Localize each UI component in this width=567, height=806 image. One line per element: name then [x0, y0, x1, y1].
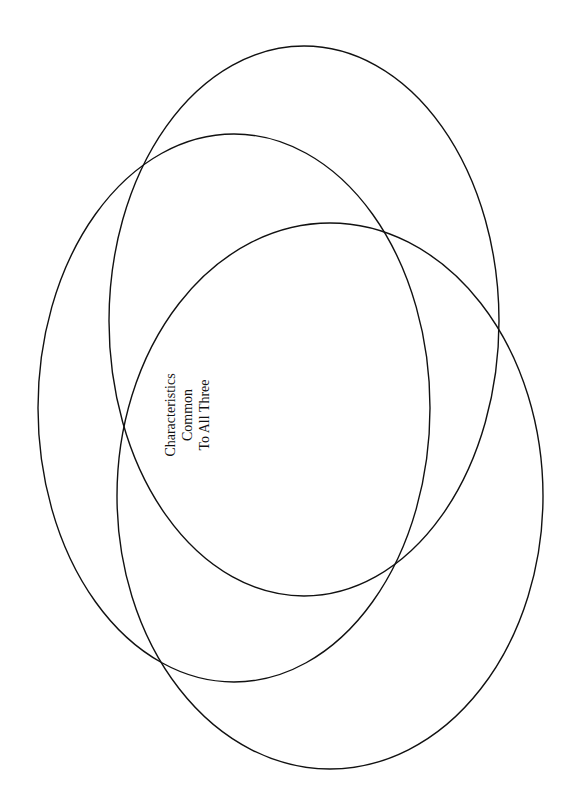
center-label: Characteristics Common To All Three — [162, 373, 213, 456]
ellipse-bottom — [117, 223, 543, 769]
venn-diagram — [0, 0, 567, 806]
center-label-line-2: Common — [179, 373, 196, 456]
ellipse-left — [38, 134, 430, 682]
ellipse-top-right — [109, 46, 499, 596]
center-label-line-3: To All Three — [196, 373, 213, 456]
center-label-line-1: Characteristics — [162, 373, 179, 456]
